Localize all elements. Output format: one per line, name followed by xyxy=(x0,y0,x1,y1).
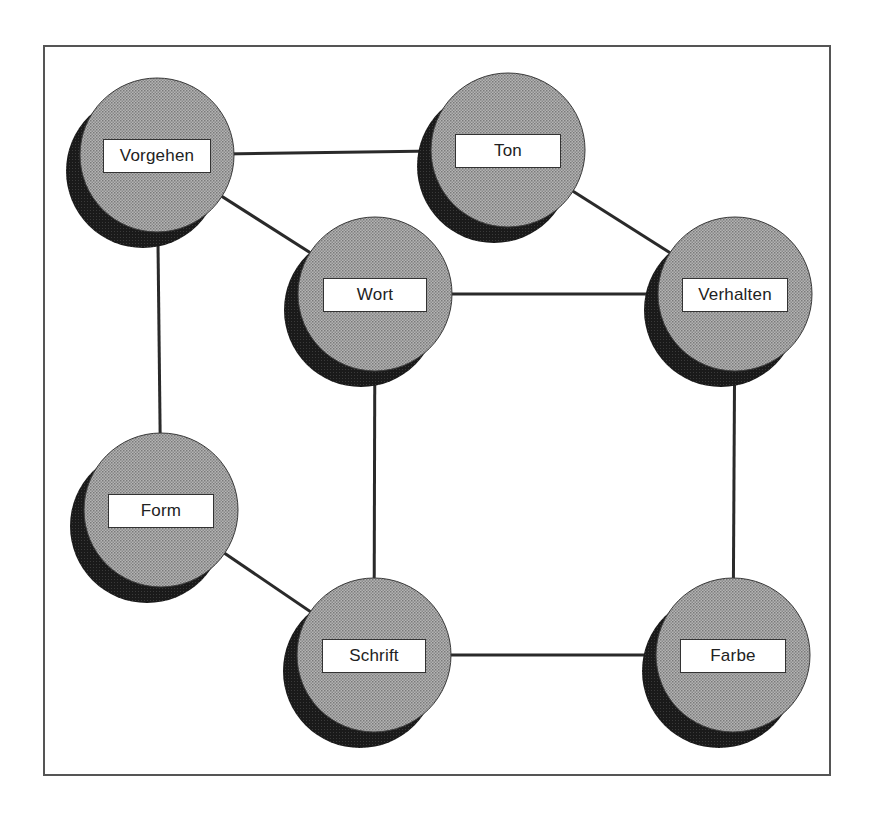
node-label-text: Form xyxy=(141,501,181,521)
node-label-verhalten: Verhalten xyxy=(682,278,788,312)
node-label-text: Schrift xyxy=(349,646,399,666)
node-label-form: Form xyxy=(108,494,214,528)
node-label-farbe: Farbe xyxy=(680,639,786,673)
diagram-canvas: VorgehenTonWortVerhaltenFormSchriftFarbe xyxy=(0,0,873,815)
node-label-text: Vorgehen xyxy=(120,146,194,166)
node-label-wort: Wort xyxy=(323,278,427,312)
node-label-text: Verhalten xyxy=(698,285,772,305)
node-label-ton: Ton xyxy=(455,134,561,168)
network-graph xyxy=(0,0,873,815)
node-label-text: Ton xyxy=(494,141,522,161)
node-label-schrift: Schrift xyxy=(322,639,426,673)
node-label-text: Wort xyxy=(357,285,393,305)
node-label-text: Farbe xyxy=(710,646,755,666)
node-label-vorgehen: Vorgehen xyxy=(103,139,211,173)
